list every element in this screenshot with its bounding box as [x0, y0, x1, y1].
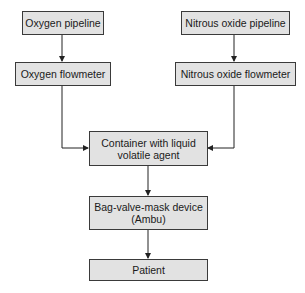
node-label: Oxygen pipeline [25, 17, 100, 29]
node-nitrous-oxide-pipeline: Nitrous oxide pipeline [181, 11, 290, 35]
node-label: Oxygen flowmeter [21, 68, 106, 80]
arrow-oxygen-flowmeter-to-container [62, 85, 88, 148]
node-container-volatile-agent: Container with liquid volatile agent [89, 131, 208, 166]
node-label: Patient [132, 264, 165, 276]
node-bag-valve-mask: Bag-valve-mask device (Ambu) [89, 196, 208, 230]
node-oxygen-flowmeter: Oxygen flowmeter [15, 62, 111, 86]
arrow-nitrous-flowmeter-to-container [208, 85, 234, 148]
node-oxygen-pipeline: Oxygen pipeline [22, 11, 104, 35]
node-label-line1: Bag-valve-mask device [94, 201, 203, 213]
node-label-line2: volatile agent [118, 149, 180, 161]
node-label-line2: (Ambu) [131, 213, 165, 225]
node-label-line1: Container with liquid [101, 137, 196, 149]
node-label: Nitrous oxide pipeline [185, 17, 285, 29]
node-label: Nitrous oxide flowmeter [181, 68, 291, 80]
node-patient: Patient [89, 259, 208, 281]
node-nitrous-oxide-flowmeter: Nitrous oxide flowmeter [175, 62, 296, 86]
